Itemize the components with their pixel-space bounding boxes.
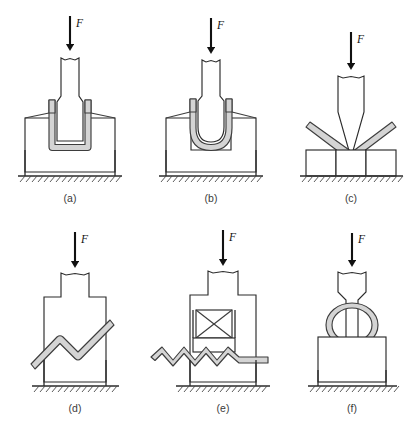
- forming-operations-figure: F (: [0, 0, 419, 428]
- die-block-center-c: [336, 150, 366, 176]
- force-label-c: F: [356, 33, 365, 45]
- caption-e: (e): [217, 402, 230, 414]
- workpiece-flange-a: [49, 100, 55, 113]
- force-label-d: F: [80, 233, 89, 245]
- workpiece-flange-b2: [226, 99, 232, 112]
- workpiece-flange-a2: [85, 100, 91, 113]
- caption-a: (a): [64, 192, 77, 204]
- base-block-f: [318, 337, 386, 382]
- force-label-f: F: [357, 233, 366, 245]
- caption-d: (d): [69, 402, 82, 414]
- punch-b: [198, 60, 224, 142]
- caption-b: (b): [205, 192, 218, 204]
- caption-f: (f): [347, 402, 357, 414]
- die-block-right-c: [366, 150, 396, 176]
- die-block-left-c: [306, 150, 336, 176]
- workpiece-flange-b: [190, 99, 196, 112]
- caption-c: (c): [345, 192, 357, 204]
- force-label-b: F: [216, 19, 225, 31]
- punch-a: [57, 58, 83, 141]
- force-label-e: F: [228, 231, 237, 243]
- force-label-a: F: [75, 17, 84, 29]
